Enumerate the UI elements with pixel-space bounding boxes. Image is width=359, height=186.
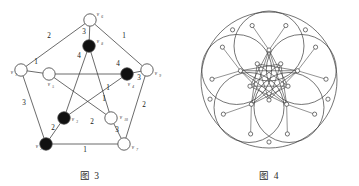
fig3-weight-v7-v10: 3 bbox=[115, 126, 119, 134]
fig4-circle-layer bbox=[201, 11, 337, 148]
fig3-weight-v6-v8: 3 bbox=[82, 28, 86, 36]
figure-3-panel: 213213132341421v6v1v9v2v7v8v5v4v3v10 图 3 bbox=[0, 0, 180, 186]
fig4-rim-link-3-1 bbox=[223, 104, 251, 114]
fig4-rim-link-3-0 bbox=[251, 104, 252, 134]
fig3-node-v3[interactable] bbox=[58, 112, 70, 124]
fig3-vertex-name-v4: v bbox=[128, 81, 131, 87]
fig4-star-node-9[interactable] bbox=[255, 62, 259, 66]
fig3-vertex-sub-v3: 3 bbox=[76, 120, 78, 124]
fig3-weight-v6-v9: 1 bbox=[122, 32, 126, 40]
fig4-rim-node-4-1[interactable] bbox=[220, 45, 224, 49]
fig3-node-v5[interactable] bbox=[43, 68, 55, 80]
fig3-node-v9[interactable] bbox=[141, 64, 153, 76]
fig4-star-node-2[interactable] bbox=[295, 69, 299, 73]
fig3-node-v8[interactable] bbox=[83, 40, 95, 52]
figure-3-graph: 213213132341421v6v1v9v2v7v8v5v4v3v10 bbox=[0, 0, 180, 165]
fig3-vertex-name-v9: v bbox=[155, 70, 158, 76]
fig3-node-v10[interactable] bbox=[105, 112, 117, 124]
fig3-vertex-label-v5: v5 bbox=[48, 81, 54, 89]
fig3-vertex-name-v10: v bbox=[120, 114, 123, 120]
fig4-rim-link-4-1 bbox=[222, 47, 240, 71]
fig4-link-layer bbox=[212, 26, 326, 134]
fig3-vertex-sub-v5: 5 bbox=[52, 85, 54, 89]
fig3-vertex-name-v1: v bbox=[11, 69, 14, 75]
fig4-rim-link-1-0 bbox=[298, 47, 316, 71]
fig4-star-chord-alt-1 bbox=[269, 64, 281, 100]
fig3-label-layer: 213213132341421v6v1v9v2v7v8v5v4v3v10 bbox=[11, 11, 161, 154]
fig3-node-v4[interactable] bbox=[121, 68, 133, 80]
fig3-weight-v1-v2: 3 bbox=[22, 99, 26, 107]
fig4-junction-node-3[interactable] bbox=[208, 97, 212, 101]
fig4-rim-node-4-0[interactable] bbox=[210, 77, 214, 81]
fig4-rim-link-0-0 bbox=[252, 26, 269, 50]
fig4-rim-node-2-0[interactable] bbox=[313, 112, 317, 116]
fig3-vertex-name-v6: v bbox=[97, 11, 100, 17]
fig3-weight-v6-v1: 2 bbox=[47, 32, 51, 40]
fig3-edge-v4-v3 bbox=[69, 78, 122, 115]
fig3-vertex-name-v8: v bbox=[97, 38, 100, 44]
fig3-edge-v6-v8 bbox=[89, 26, 90, 40]
fig4-lobe-circle-4 bbox=[202, 34, 272, 104]
fig3-vertex-label-v4: v4 bbox=[128, 81, 134, 89]
fig4-rim-link-0-1 bbox=[269, 26, 286, 50]
fig4-junction-node-4[interactable] bbox=[230, 28, 234, 32]
fig3-vertex-sub-v8: 8 bbox=[101, 42, 103, 46]
fig4-rim-node-0-0[interactable] bbox=[250, 23, 254, 27]
fig4-rim-node-2-1[interactable] bbox=[285, 132, 289, 136]
fig4-junction-node-1[interactable] bbox=[326, 97, 330, 101]
fig4-lobe-circle-2 bbox=[254, 73, 324, 143]
fig4-rim-node-3-0[interactable] bbox=[249, 132, 253, 136]
fig3-vertex-sub-v1: 1 bbox=[15, 73, 17, 77]
fig3-vertex-label-v3: v3 bbox=[72, 116, 78, 124]
fig4-star-node-5[interactable] bbox=[267, 98, 271, 102]
fig3-weight-v4-v3: 1 bbox=[102, 95, 106, 103]
fig4-star-node-1[interactable] bbox=[279, 62, 283, 66]
fig3-weight-v5-v10: 2 bbox=[90, 118, 94, 126]
fig3-vertex-sub-v6: 6 bbox=[101, 15, 103, 19]
fig4-junction-node-2[interactable] bbox=[267, 140, 271, 144]
fig3-vertex-sub-v2: 2 bbox=[40, 147, 42, 151]
figure-3-caption: 图 3 bbox=[0, 168, 180, 182]
fig3-weight-v9-v4: 3 bbox=[137, 74, 141, 82]
fig4-star-node-6[interactable] bbox=[249, 102, 253, 106]
fig3-vertex-label-v8: v8 bbox=[97, 38, 103, 46]
fig3-node-v6[interactable] bbox=[84, 14, 96, 26]
fig4-star-node-8[interactable] bbox=[238, 69, 242, 73]
fig3-weight-v8-v3: 4 bbox=[77, 52, 81, 60]
fig4-star-node-4[interactable] bbox=[285, 102, 289, 106]
fig3-weight-v1-v5: 1 bbox=[34, 58, 38, 66]
fig3-vertex-sub-v7: 7 bbox=[136, 148, 138, 152]
figure-4-panel: 图 4 bbox=[180, 0, 359, 186]
fig4-lobe-circle-3 bbox=[214, 73, 284, 143]
fig4-rim-node-1-1[interactable] bbox=[324, 77, 328, 81]
figure-4-graph bbox=[180, 0, 359, 165]
fig4-lobe-circle-1 bbox=[266, 34, 336, 104]
fig3-vertex-label-v9: v9 bbox=[155, 70, 161, 78]
fig4-rim-node-0-1[interactable] bbox=[284, 23, 288, 27]
fig3-vertex-label-v7: v7 bbox=[132, 144, 138, 152]
fig3-vertex-name-v2: v bbox=[36, 143, 39, 149]
fig4-rim-node-3-1[interactable] bbox=[221, 112, 225, 116]
fig4-rim-link-2-0 bbox=[287, 104, 315, 114]
fig3-vertex-label-v6: v6 bbox=[97, 11, 103, 19]
fig4-rim-link-2-1 bbox=[287, 104, 288, 134]
fig3-weight-v8-v10: 1 bbox=[106, 84, 110, 92]
fig3-vertex-sub-v9: 9 bbox=[159, 74, 161, 78]
fig4-star-node-7[interactable] bbox=[248, 84, 252, 88]
fig3-weight-v9-v7: 2 bbox=[142, 101, 146, 109]
fig4-rim-node-1-0[interactable] bbox=[313, 45, 317, 49]
fig4-junction-node-0[interactable] bbox=[303, 28, 307, 32]
fig4-star-node-0[interactable] bbox=[267, 48, 271, 52]
fig4-star-chord-alt-5 bbox=[257, 64, 269, 100]
fig3-edge-v8-v3 bbox=[66, 52, 87, 112]
fig3-weight-v2-v3: 2 bbox=[51, 124, 55, 132]
fig3-edge-v1-v2 bbox=[23, 76, 44, 138]
fig4-star-node-3[interactable] bbox=[286, 84, 290, 88]
fig3-vertex-sub-v10: 10 bbox=[124, 118, 128, 122]
fig3-vertex-label-v10: v10 bbox=[120, 114, 128, 122]
fig3-vertex-name-v5: v bbox=[48, 81, 51, 87]
fig3-edge-v9-v4 bbox=[133, 71, 141, 73]
fig3-edge-v1-v5 bbox=[27, 71, 43, 73]
fig3-vertex-name-v7: v bbox=[132, 144, 135, 150]
fig3-node-v7[interactable] bbox=[118, 138, 130, 150]
